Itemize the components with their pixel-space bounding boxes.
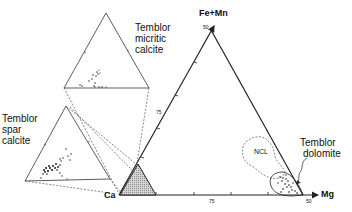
dolomite-field [270, 172, 303, 196]
ternary-diagram [0, 0, 352, 212]
label-dolomite: Temblor dolomite [300, 137, 341, 159]
tick-label-base-50: 50 [306, 199, 312, 205]
tick-label-apex: 50 [203, 25, 209, 31]
dolomite-data-points [277, 174, 298, 194]
label-spar-calcite: Temblor spar calcite [2, 113, 38, 146]
label-ncl: NCL [254, 148, 268, 156]
spar-data-points [40, 148, 71, 178]
tick-label-base-75: 75 [209, 199, 215, 205]
hatched-region [120, 164, 156, 195]
vertex-label-mg: Mg [321, 190, 334, 200]
vertex-label-ca: Ca [104, 191, 116, 201]
micritic-data-points [79, 69, 102, 87]
label-micritic-calcite: Temblor micritic calcite [135, 22, 171, 55]
vertex-label-fe-mn: Fe+Mn [199, 9, 228, 19]
tick-label-left-75: 75 [156, 110, 162, 116]
dolomite-leader [297, 158, 307, 184]
